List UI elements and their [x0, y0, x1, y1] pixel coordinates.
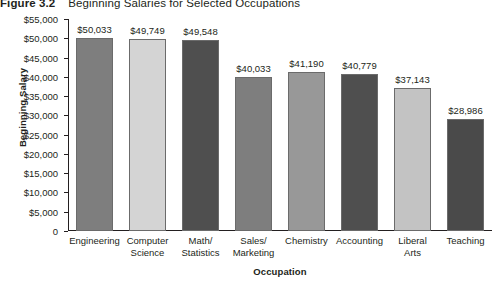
figure-container: Figure 3.2Beginning Salaries for Selecte…	[0, 0, 499, 283]
y-axis-tick-label: $30,000	[24, 110, 58, 121]
bar-value-label: $40,033	[227, 63, 280, 74]
bar[interactable]	[235, 77, 272, 231]
x-axis-categories: EngineeringComputerScienceMath/Statistic…	[68, 235, 492, 263]
bar-value-label: $28,986	[439, 105, 492, 116]
bar-value-label: $41,190	[280, 58, 333, 69]
y-axis-tick-label: $25,000	[24, 129, 58, 140]
bar[interactable]	[182, 40, 219, 231]
bar-slot: $50,033	[68, 19, 121, 231]
bar-slot: $49,749	[121, 19, 174, 231]
x-axis-category-label: Sales/Marketing	[227, 235, 280, 258]
category-label-line: Liberal	[386, 235, 439, 247]
bar-series: $50,033$49,749$49,548$40,033$41,190$40,7…	[68, 19, 492, 231]
bar-slot: $49,548	[174, 19, 227, 231]
bar-value-label: $40,779	[333, 60, 386, 71]
category-label-line: Sales/	[227, 235, 280, 247]
bar-slot: $40,779	[333, 19, 386, 231]
y-axis-tick-label: $15,000	[24, 168, 58, 179]
bar-slot: $37,143	[386, 19, 439, 231]
figure-title: Beginning Salaries for Selected Occupati…	[68, 0, 300, 9]
category-label-line: Chemistry	[280, 235, 333, 247]
bar[interactable]	[129, 39, 166, 231]
y-axis-tick-label: $45,000	[24, 52, 58, 63]
category-label-line: Computer	[121, 235, 174, 247]
x-axis-category-label: Engineering	[68, 235, 121, 247]
y-axis-tick: 0	[64, 231, 68, 232]
category-label-line: Statistics	[174, 247, 227, 259]
y-axis-tick-label: $50,000	[24, 33, 58, 44]
x-axis-category-label: Chemistry	[280, 235, 333, 247]
plot-area: $55,000$50,000$45,000$40,000$35,000$30,0…	[68, 19, 492, 231]
category-label-line: Engineering	[68, 235, 121, 247]
bar[interactable]	[76, 38, 113, 231]
bar-slot: $28,986	[439, 19, 492, 231]
category-label-line: Science	[121, 247, 174, 259]
figure-number: Figure 3.2	[0, 0, 55, 9]
category-label-line: Accounting	[333, 235, 386, 247]
y-axis-tick-label: $20,000	[24, 148, 58, 159]
x-axis-category-label: LiberalArts	[386, 235, 439, 258]
bar[interactable]	[288, 72, 325, 231]
bar[interactable]	[394, 88, 431, 231]
bar-slot: $41,190	[280, 19, 333, 231]
bar-value-label: $49,548	[174, 26, 227, 37]
bar[interactable]	[447, 119, 484, 231]
x-axis-category-label: Teaching	[439, 235, 492, 247]
bar-slot: $40,033	[227, 19, 280, 231]
bar-value-label: $37,143	[386, 74, 439, 85]
y-axis-tick-label: $10,000	[24, 187, 58, 198]
bar-value-label: $49,749	[121, 25, 174, 36]
x-axis-category-label: Math/Statistics	[174, 235, 227, 258]
category-label-line: Math/	[174, 235, 227, 247]
x-axis-title: Occupation	[68, 266, 492, 277]
bar[interactable]	[341, 74, 378, 231]
y-axis-tick-label: 0	[53, 226, 58, 237]
category-label-line: Teaching	[439, 235, 492, 247]
y-axis-tick-label: $35,000	[24, 91, 58, 102]
figure-caption: Figure 3.2Beginning Salaries for Selecte…	[0, 0, 300, 9]
category-label-line: Arts	[386, 247, 439, 259]
bar-value-label: $50,033	[68, 24, 121, 35]
x-axis-category-label: Accounting	[333, 235, 386, 247]
y-axis-tick-label: $40,000	[24, 71, 58, 82]
y-axis-tick-label: $5,000	[29, 206, 58, 217]
y-axis-tick-label: $55,000	[24, 14, 58, 25]
x-axis-category-label: ComputerScience	[121, 235, 174, 258]
category-label-line: Marketing	[227, 247, 280, 259]
